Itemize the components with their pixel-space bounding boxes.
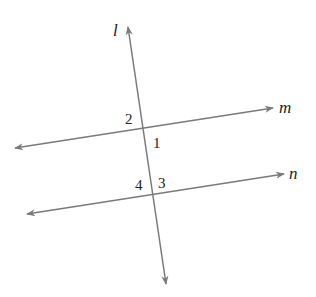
angle-label-2: 2 [125, 111, 133, 127]
line-m [15, 108, 273, 148]
angle-label-3: 3 [158, 175, 166, 191]
angle-label-4: 4 [135, 177, 143, 193]
angle-label-1: 1 [153, 135, 161, 151]
diagram-canvas: l m n 1 2 3 4 [0, 0, 316, 297]
line-label-n: n [289, 164, 298, 183]
line-l [128, 27, 166, 284]
line-label-l: l [113, 21, 118, 40]
line-label-m: m [279, 98, 291, 117]
